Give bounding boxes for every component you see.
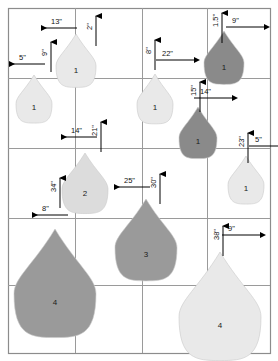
droplet-size-label: 3 — [144, 251, 148, 259]
droplet-drop-4-right — [179, 252, 261, 361]
dimension-label-dim-5a: 5" — [19, 54, 26, 62]
dimension-label-dim-23: 23" — [238, 136, 246, 147]
dimension-label-dim-21: 21" — [91, 125, 99, 136]
dimension-label-dim-9a: 9" — [41, 49, 49, 56]
droplet-size-label: 4 — [53, 299, 57, 307]
droplet-size-label: 1 — [244, 185, 248, 193]
droplet-drop-tr-1 — [204, 31, 244, 84]
dimension-label-dim-25: 25" — [124, 177, 135, 185]
droplet-shapes — [14, 31, 264, 361]
droplet-size-label: 2 — [83, 190, 87, 198]
droplet-size-label: 1 — [196, 138, 200, 146]
droplet-size-label: 4 — [218, 322, 222, 330]
dimension-label-dim-5b: 5" — [255, 136, 262, 144]
droplet-drop-r-1 — [179, 107, 217, 159]
dimension-label-dim-14a: 14" — [200, 88, 211, 96]
droplet-size-label: 1 — [74, 67, 78, 75]
droplet-size-label: 1 — [222, 64, 226, 72]
dimension-label-dim-13: 13" — [51, 18, 62, 26]
dimension-label-dim-9c: 9" — [228, 225, 235, 233]
dimension-label-dim-2: 2" — [86, 23, 94, 30]
dimension-label-dim-15b: 15" — [190, 85, 198, 96]
dimension-label-dim-30: 30" — [150, 177, 158, 188]
droplet-drop-tl-1 — [56, 34, 96, 87]
droplet-drop-4-left — [14, 229, 96, 338]
droplet-drop-l-1 — [16, 75, 52, 123]
dimension-label-dim-34: 34" — [50, 181, 58, 192]
diagram-root: 1111112344 13"2"9"5"8"22"1.5"9"15"14"21"… — [0, 0, 278, 361]
dimension-label-dim-15: 1.5" — [212, 14, 220, 27]
droplet-drop-2 — [62, 153, 108, 214]
droplet-drop-3 — [115, 199, 177, 281]
dimension-label-dim-14b: 14" — [71, 127, 82, 135]
droplet-size-label: 1 — [32, 104, 36, 112]
droplet-drop-rr-1 — [228, 156, 264, 204]
dimension-label-dim-9b: 9" — [232, 17, 239, 25]
dimension-label-dim-8a: 8" — [145, 47, 153, 54]
dimension-label-dim-22: 22" — [162, 50, 173, 58]
dimension-label-dim-38: 38" — [213, 229, 221, 240]
dimension-label-dim-8b: 8" — [42, 205, 49, 213]
droplet-size-label: 1 — [153, 104, 157, 112]
